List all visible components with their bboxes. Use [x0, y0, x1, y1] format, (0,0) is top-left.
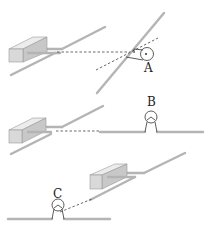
panel-middle: B	[9, 95, 203, 154]
label-c: C	[53, 187, 62, 201]
observer-b	[145, 111, 157, 132]
sight-line	[60, 199, 92, 212]
rod-upper	[62, 106, 103, 127]
panel-bottom: C	[8, 153, 185, 219]
diagram: A B	[0, 0, 209, 230]
panel-top: A	[9, 13, 164, 93]
rod-upper	[62, 27, 105, 49]
rotated-rod	[97, 13, 164, 93]
label-b: B	[147, 95, 156, 109]
observer-c	[52, 199, 64, 219]
rod-upper	[144, 153, 185, 173]
box	[9, 37, 47, 62]
label-a: A	[143, 61, 153, 75]
